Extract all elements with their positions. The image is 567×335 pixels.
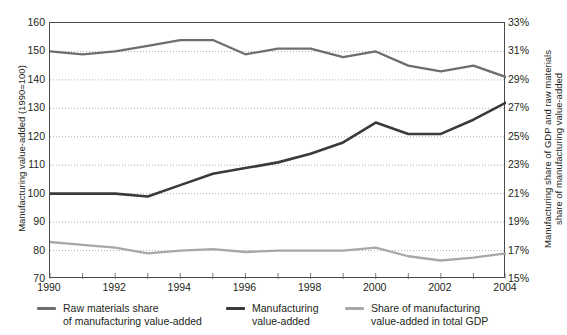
right-axis-title: Manufacturing share of GDP and raw mater… [542, 24, 564, 274]
x-axis-tick-label: 1992 [89, 281, 139, 294]
legend-item-share-of-mva-in-gdp: Share of manufacturing value-added in to… [345, 302, 488, 328]
right-axis-tick-label: 17% [508, 244, 548, 256]
x-axis-tick-label: 2004 [480, 281, 530, 294]
left-axis-tick-label: 140 [11, 73, 45, 85]
legend-label: Raw materials share of manufacturing val… [63, 302, 202, 328]
chart-container: Manufacturing value-added (1990=100) Man… [0, 0, 567, 335]
chart-legend: Raw materials share of manufacturing val… [0, 302, 567, 335]
right-axis-tick-label: 31% [508, 44, 548, 56]
right-axis-tick-label: 25% [508, 130, 548, 142]
right-axis-tick-label: 29% [508, 73, 548, 85]
x-axis-tick-label: 1994 [154, 281, 204, 294]
legend-swatch-icon [37, 307, 56, 310]
plot-area [49, 22, 505, 278]
left-axis-tick-label: 100 [11, 187, 45, 199]
legend-swatch-icon [226, 307, 245, 310]
left-axis-title: Manufacturing value-added (1990=100) [16, 24, 27, 274]
legend-item-raw-materials-share: Raw materials share of manufacturing val… [37, 302, 202, 328]
legend-label: Manufacturing value-added [252, 302, 319, 328]
x-axis-tick-label: 1998 [285, 281, 335, 294]
left-axis-tick-label: 120 [11, 130, 45, 142]
series-line-2 [50, 242, 506, 260]
left-axis-tick-label: 160 [11, 16, 45, 28]
right-axis-tick-label: 23% [508, 158, 548, 170]
left-axis-tick-label: 130 [11, 101, 45, 113]
legend-swatch-icon [345, 307, 364, 310]
series-line-0 [50, 40, 506, 77]
series-line-1 [50, 103, 506, 197]
plot-svg [50, 23, 506, 279]
x-axis-tick-label: 1996 [219, 281, 269, 294]
right-axis-tick-label: 33% [508, 16, 548, 28]
left-axis-tick-label: 110 [11, 158, 45, 170]
legend-item-manufacturing-value-added: Manufacturing value-added [226, 302, 319, 328]
left-axis-tick-label: 80 [11, 244, 45, 256]
right-axis-tick-label: 21% [508, 187, 548, 199]
left-axis-tick-label: 150 [11, 44, 45, 56]
x-axis-tick-label: 2002 [415, 281, 465, 294]
right-axis-tick-label: 19% [508, 215, 548, 227]
left-axis-tick-label: 90 [11, 215, 45, 227]
right-axis-tick-label: 27% [508, 101, 548, 113]
x-axis-tick-label: 1990 [24, 281, 74, 294]
legend-label: Share of manufacturing value-added in to… [371, 302, 488, 328]
x-axis-tick-label: 2000 [350, 281, 400, 294]
